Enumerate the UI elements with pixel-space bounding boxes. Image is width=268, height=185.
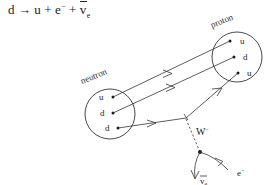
antineutrino-label: ve (200, 176, 208, 185)
proton-quark-label-u2: u (247, 68, 252, 78)
proton-circle (212, 32, 262, 82)
electron-line (200, 152, 228, 170)
proton-quark-label-d: d (243, 52, 248, 62)
antineutrino-label-group: ve (200, 176, 208, 185)
neutron-quark-label-u: u (99, 92, 104, 102)
w-boson-label: W− (196, 126, 209, 137)
neutron-label: neutron (79, 66, 109, 86)
neutron-circle (85, 89, 135, 139)
proton-quark-label-u1: u (240, 36, 245, 46)
proton-label: proton (209, 12, 235, 30)
arrowhead-u-outgoing (212, 88, 222, 96)
neutron-quark-label-d1: d (100, 108, 105, 118)
quark-line-u-outgoing (186, 73, 238, 118)
electron-label: e− (237, 167, 245, 178)
quark-line-d-spectator (113, 57, 234, 113)
quark-line-d-decaying (118, 118, 186, 128)
neutron-quark-label-d2: d (105, 123, 110, 133)
feynman-diagram-canvas: neutron u d d proton u d u (0, 0, 268, 185)
feynman-diagram-figure: d→u+e−+ve neutron u d d proton u d u (0, 0, 268, 185)
